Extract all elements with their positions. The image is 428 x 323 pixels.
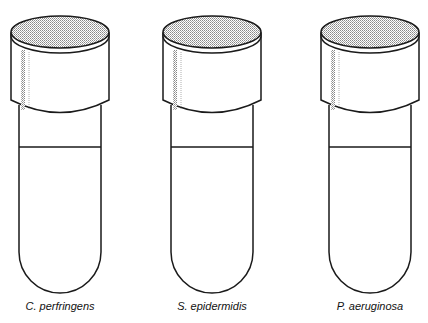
tube-p-aeruginosa — [321, 16, 419, 293]
tube-label-1: C. perfringens — [0, 300, 120, 312]
tube-label-3: P. aeruginosa — [310, 300, 428, 312]
tube-c-perfringens — [11, 16, 109, 293]
tube-label-2: S. epidermidis — [152, 300, 272, 312]
tube-s-epidermidis — [163, 16, 261, 293]
culture-tubes-diagram — [0, 0, 428, 323]
